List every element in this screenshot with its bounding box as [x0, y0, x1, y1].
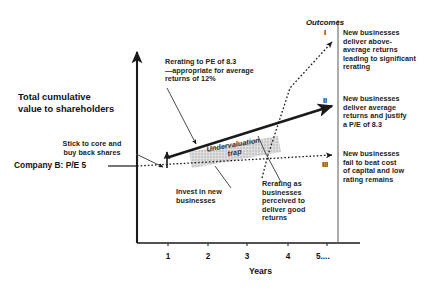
x-tick-label-4: 4 [278, 252, 298, 261]
outcome-numeral-ii: II [318, 96, 332, 105]
y-axis-title: Total cumulative value to shareholders [18, 92, 138, 115]
company-b-label: Company B: P/E 5 [14, 160, 86, 170]
outcome-text-iii: New businesses fail to beat cost of capi… [343, 150, 443, 184]
leader-stick-to-core [136, 154, 163, 167]
x-tick-label-2: 2 [198, 252, 218, 261]
outcome-text-ii-line4: a P/E of 8.3 [343, 121, 443, 130]
outcome-numeral-i: I [318, 28, 332, 37]
annotation-rerating-perceived: Rerating as businesses perceived to deli… [262, 180, 324, 223]
outcomes-heading: Outcomes [306, 18, 344, 27]
outcome-numeral-iii: III [318, 160, 332, 169]
outcome-text-iii-line4: rating remains [343, 176, 443, 185]
y-axis-title-line2: value to shareholders [18, 104, 138, 116]
x-tick-label-3: 3 [237, 252, 257, 261]
x-axis-title: Years [249, 266, 272, 276]
x-tick-label-5: 5.... [316, 252, 348, 261]
annotation-stick-to-core: Stick to core and buy back shares [46, 140, 138, 157]
outcome-text-ii: New businesses deliver average returns a… [343, 95, 443, 129]
x-tick-label-1: 1 [158, 252, 178, 261]
outcome-text-i-line5: rerating [343, 63, 443, 72]
annotation-invest-new: Invest in new businesses [176, 188, 262, 205]
leader-rerating-pe [167, 88, 196, 144]
chart-canvas: Total cumulative value to shareholders C… [0, 0, 446, 292]
annotation-rerating-pe: Rerating to PE of 8.3 —appropriate for a… [165, 58, 290, 84]
outcome-text-i: New businesses deliver above- average re… [343, 29, 443, 72]
leader-invest-new [215, 166, 231, 188]
y-axis-title-line1: Total cumulative [18, 92, 138, 104]
annotation-rerating-pe-line3: returns of 12% [165, 75, 290, 84]
annotation-invest-new-line2: businesses [176, 197, 262, 206]
annotation-rerating-perceived-line5: returns [262, 214, 324, 223]
annotation-stick-to-core-line2: buy back shares [46, 149, 138, 158]
